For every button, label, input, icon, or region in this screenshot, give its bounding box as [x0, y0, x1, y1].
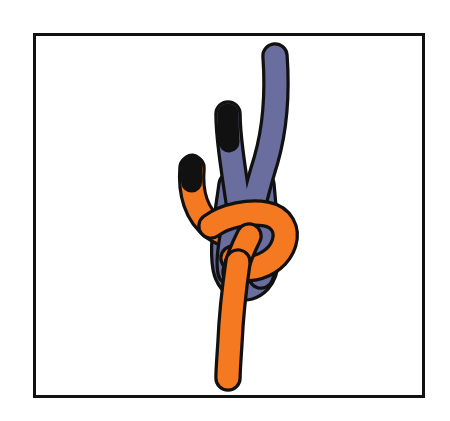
illustration-frame: Knot diagram with two ropes An orange ro…: [0, 0, 450, 421]
orange-standing-part: [228, 262, 238, 378]
knot-illustration-svg: Knot diagram with two ropes An orange ro…: [0, 0, 450, 421]
knot-illustration-page: Knot diagram with two ropes An orange ro…: [0, 0, 450, 421]
blue-taped-tip: [228, 114, 229, 142]
orange-taped-tip: [191, 164, 192, 182]
